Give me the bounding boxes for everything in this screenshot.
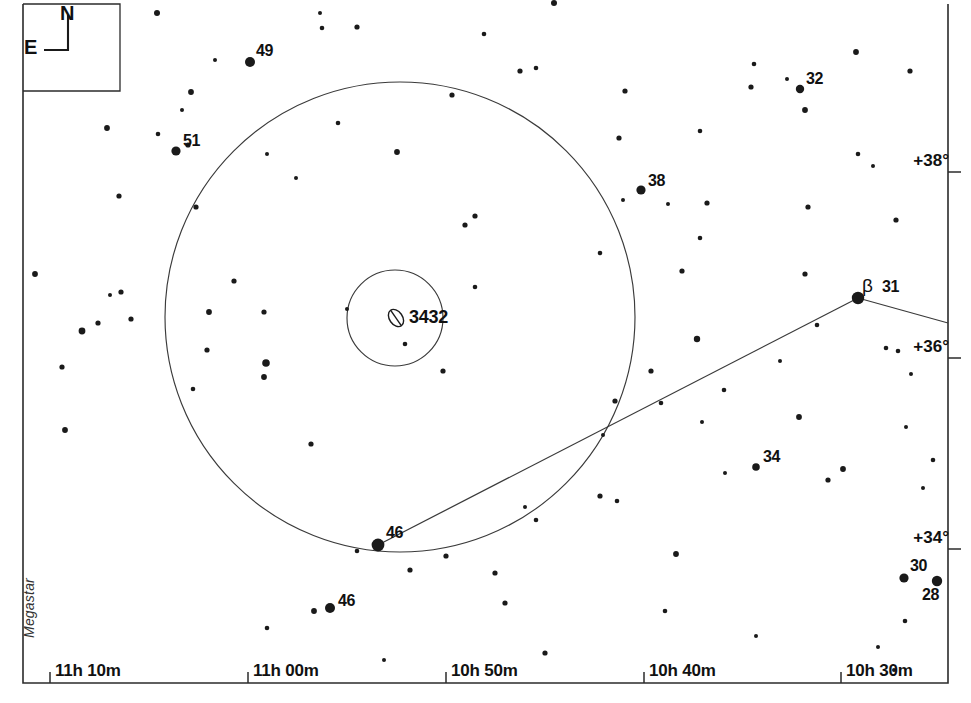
star-marker (700, 420, 704, 424)
constellation-line (858, 298, 948, 323)
star-marker (502, 600, 507, 605)
star-marker (598, 251, 603, 256)
star-marker (666, 202, 670, 206)
star-marker (871, 164, 875, 168)
star-marker (108, 293, 112, 297)
star-marker-labeled (899, 573, 908, 582)
star-marker (294, 176, 298, 180)
star-marker (621, 198, 625, 202)
star-marker (193, 204, 198, 209)
star-marker (482, 32, 487, 37)
star-marker (32, 271, 38, 277)
star-marker (443, 553, 448, 558)
star-marker (694, 336, 700, 342)
star-marker (355, 549, 360, 554)
dec-tick-label: +34° (913, 528, 949, 548)
star-marker (752, 62, 757, 67)
star-marker (394, 149, 400, 155)
credit-watermark: Megastar (21, 563, 37, 653)
star-marker (659, 401, 664, 406)
star-marker (921, 486, 925, 490)
star-marker-labeled (932, 576, 942, 586)
star-marker (704, 200, 709, 205)
star-marker-labeled (171, 146, 180, 155)
star-marker (318, 11, 322, 15)
star-marker (840, 466, 846, 472)
ra-tick-label: 10h 30m (846, 661, 913, 681)
star-marker-labeled (372, 539, 385, 552)
ra-tick-label: 11h 10m (55, 661, 121, 681)
star-marker (403, 342, 408, 347)
star-marker (95, 320, 100, 325)
deep-sky-objects (385, 306, 407, 329)
dec-tick-label: +36° (913, 337, 949, 357)
star-marker (517, 68, 522, 73)
star-marker (473, 285, 478, 290)
star-marker (748, 84, 753, 89)
star-marker-labeled (796, 85, 804, 93)
star-marker (893, 217, 898, 222)
star-label-greek: β (862, 275, 873, 297)
star-marker (802, 107, 808, 113)
star-marker-labeled (752, 463, 760, 471)
star-marker (336, 121, 341, 126)
star-marker (673, 551, 679, 557)
chart-frame (23, 4, 948, 683)
ra-tick-label: 10h 50m (451, 661, 518, 681)
star-marker (802, 271, 807, 276)
sky-canvas (0, 0, 971, 703)
star-marker (904, 425, 908, 429)
star-marker (308, 441, 313, 446)
star-marker (754, 634, 758, 638)
compass-east-label: E (24, 36, 37, 59)
ra-tick-label: 10h 40m (649, 661, 716, 681)
star-marker (884, 346, 889, 351)
star-marker (815, 323, 820, 328)
star-marker-labeled (245, 57, 255, 67)
star-label-49: 49 (256, 42, 273, 60)
star-marker (180, 108, 184, 112)
star-marker (597, 493, 602, 498)
star-marker (354, 24, 359, 29)
star-label-34: 34 (763, 448, 780, 466)
star-marker (472, 213, 477, 218)
star-marker (805, 204, 810, 209)
star-marker (154, 10, 160, 16)
star-marker (407, 567, 412, 572)
star-label-46: 46 (386, 524, 403, 542)
star-marker (551, 0, 557, 6)
constellation-lines (378, 298, 948, 545)
star-marker (853, 49, 859, 55)
star-chart: 11h 10m11h 00m10h 50m10h 40m10h 30m+38°+… (0, 0, 971, 703)
star-marker (231, 278, 236, 283)
star-marker (796, 414, 802, 420)
star-marker (261, 374, 267, 380)
star-marker (534, 518, 539, 523)
constellation-line (378, 298, 858, 545)
star-marker (79, 328, 86, 335)
star-marker-labeled (636, 185, 645, 194)
star-marker (118, 289, 123, 294)
star-marker (542, 650, 547, 655)
star-marker (206, 309, 212, 315)
star-label-46: 46 (338, 592, 355, 610)
star-marker (679, 268, 684, 273)
star-marker (903, 619, 908, 624)
star-marker (663, 609, 668, 614)
star-marker (449, 92, 454, 97)
star-marker (896, 349, 901, 354)
finder-circles (165, 82, 635, 552)
star-marker (907, 68, 912, 73)
galaxy-symbol (385, 306, 407, 329)
ra-tick-label: 11h 00m (253, 661, 319, 681)
star-marker (59, 364, 64, 369)
star-marker (382, 658, 386, 662)
star-marker (616, 135, 621, 140)
star-marker (622, 88, 627, 93)
star-marker (492, 570, 497, 575)
compass-north-label: N (60, 2, 74, 25)
star-marker (320, 26, 325, 31)
dec-tick-label: +38° (913, 151, 949, 171)
star-marker (204, 347, 209, 352)
star-label-32: 32 (806, 70, 823, 88)
